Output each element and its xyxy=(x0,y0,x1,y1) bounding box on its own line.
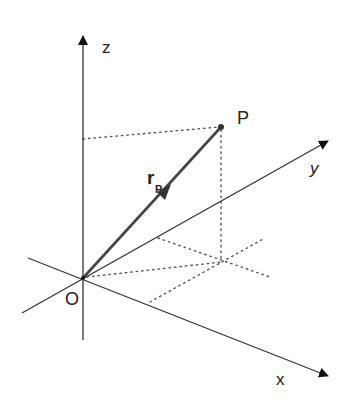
y-axis xyxy=(22,141,328,313)
origin-marker xyxy=(81,276,85,280)
z-axis-label: z xyxy=(102,38,111,57)
projection-origin-to-foot xyxy=(87,262,222,277)
origin-label: O xyxy=(65,289,79,309)
coordinate-diagram: z y x O P r P xyxy=(0,0,352,408)
y-axis-label: y xyxy=(309,159,320,178)
axes xyxy=(22,36,328,376)
position-vector xyxy=(81,124,224,280)
projection-x-parallel xyxy=(150,238,265,302)
x-axis xyxy=(28,258,328,376)
projection-y-parallel xyxy=(158,238,270,277)
point-p-marker xyxy=(218,124,224,130)
projection-p-to-z-axis xyxy=(83,127,219,139)
projection-lines xyxy=(83,127,270,302)
point-p-label: P xyxy=(237,108,249,128)
vector-label: r xyxy=(147,167,155,188)
vector-r-p xyxy=(83,127,221,278)
vector-subscript: P xyxy=(155,183,162,195)
x-axis-label: x xyxy=(276,370,285,389)
